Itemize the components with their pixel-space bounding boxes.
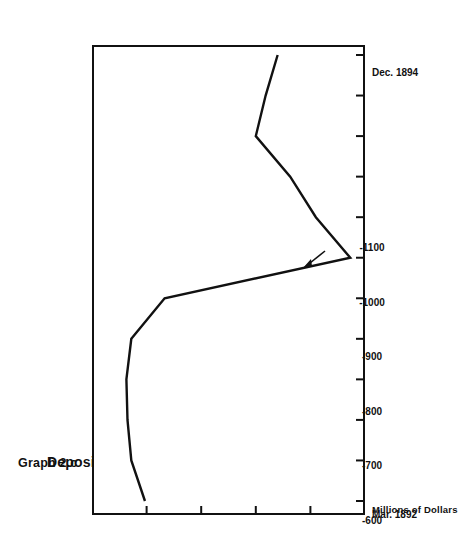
x-axis-start-label: Mar. 1892 (372, 509, 417, 520)
x-axis-end-label: Dec. 1894 (372, 67, 418, 78)
peak-arrow-icon (303, 251, 325, 268)
annotation-layer (92, 45, 365, 515)
